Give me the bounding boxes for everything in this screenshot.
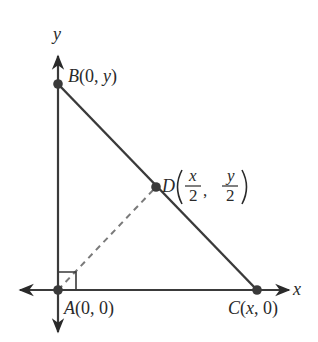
label-b: B(0, y) bbox=[68, 66, 117, 87]
d-y-numerator: y bbox=[225, 166, 235, 185]
y-axis-label: y bbox=[51, 24, 61, 44]
label-a: A(0, 0) bbox=[63, 298, 114, 319]
point-d bbox=[151, 182, 161, 192]
d-x-denominator: 2 bbox=[189, 186, 198, 205]
svg-text:,: , bbox=[203, 181, 207, 200]
point-b bbox=[53, 79, 63, 89]
x-axis-label: x bbox=[292, 279, 301, 299]
d-y-denominator: 2 bbox=[226, 186, 235, 205]
point-c bbox=[252, 285, 262, 295]
label-d: D x 2 , y 2 bbox=[161, 166, 247, 205]
segment-ad-dashed bbox=[58, 187, 156, 290]
label-c: C(x, 0) bbox=[228, 298, 278, 319]
point-a bbox=[53, 285, 63, 295]
right-triangle-diagram: y x B(0, y) A(0, 0) C(x, 0) D x 2 , y 2 bbox=[0, 0, 318, 342]
d-x-numerator: x bbox=[188, 166, 197, 185]
svg-text:D: D bbox=[161, 176, 175, 196]
